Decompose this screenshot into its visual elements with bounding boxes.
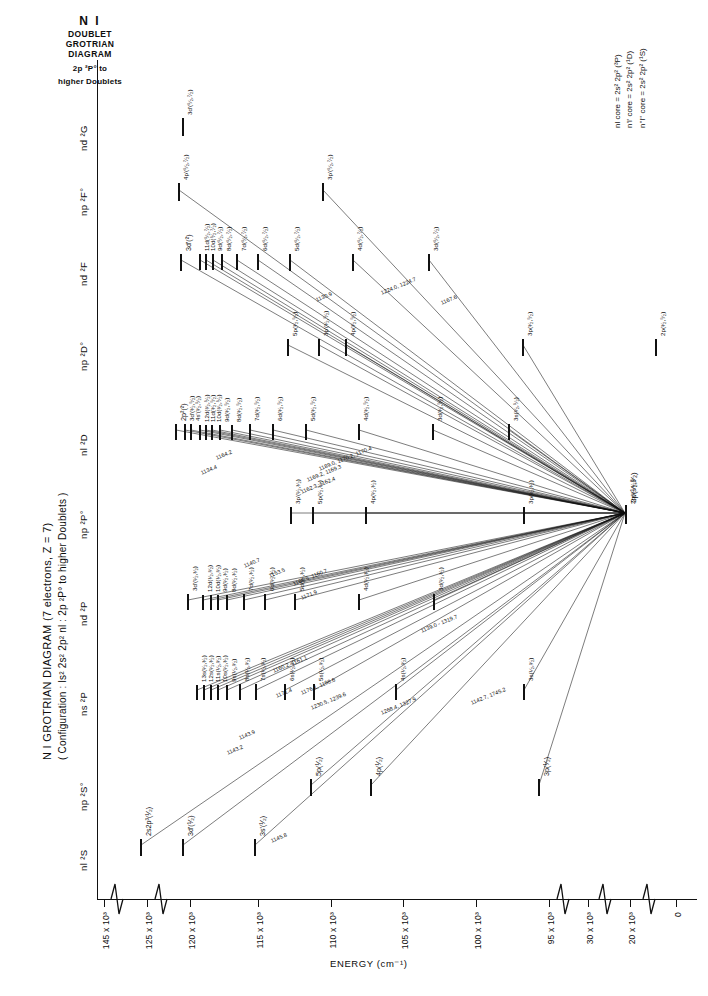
energy-level-label: 3p(¹⁄₂,³⁄₂) bbox=[527, 480, 534, 504]
energy-level-label: 3s'(¹⁄₂) bbox=[258, 815, 267, 835]
energy-level-marker bbox=[203, 685, 205, 700]
energy-level-marker bbox=[538, 779, 540, 796]
energy-level-label: 4d(¹⁄₂,³⁄₂) bbox=[362, 567, 369, 591]
energy-level-label: 4p(³⁄₂,⁵⁄₂) bbox=[349, 311, 356, 335]
core-legend-item-2: n''l'' core = 2s² 2p² (¹S) bbox=[637, 48, 649, 128]
axis-break-mark bbox=[599, 884, 611, 914]
energy-level-label: 5s(¹⁄₂,³⁄₂) bbox=[317, 658, 324, 681]
energy-level-marker bbox=[428, 254, 430, 271]
energy-level-label: 8d(¹⁄₂,³⁄₂) bbox=[230, 568, 237, 592]
energy-level-label: 8d(³⁄₂,⁵⁄₂) bbox=[235, 397, 242, 421]
energy-level-marker bbox=[254, 839, 256, 856]
core-legend-item-1: n'l' core = 2s² 2p² (¹D) bbox=[624, 48, 636, 128]
energy-level-label: 3p'(³⁄₂,⁵⁄₂) bbox=[322, 310, 329, 335]
energy-level-marker bbox=[290, 507, 292, 524]
transition-line bbox=[265, 513, 625, 600]
core-legend-item-0: nl core = 2s² 2p² (³P) bbox=[612, 48, 624, 128]
axis-break-mark bbox=[111, 884, 123, 914]
transition-line bbox=[314, 513, 625, 690]
transition-line bbox=[256, 513, 625, 690]
energy-level-label: 4s'(³⁄₂,⁵⁄₂) bbox=[194, 396, 201, 421]
transition-line bbox=[232, 430, 625, 513]
ground-state-label: 2p(¹⁄₂,³⁄₂) bbox=[629, 472, 638, 503]
energy-level-marker bbox=[182, 118, 184, 136]
transition-line bbox=[295, 513, 625, 600]
energy-level-marker bbox=[249, 424, 251, 440]
energy-level-label: 5d(³⁄₂,⁵⁄₂) bbox=[309, 397, 316, 421]
energy-level-label: 12s(¹⁄₂,³⁄₂) bbox=[207, 655, 214, 682]
transition-line bbox=[218, 513, 625, 690]
energy-level-label: 8d(⁵⁄₂,⁷⁄₂) bbox=[225, 227, 232, 251]
energy-level-marker bbox=[432, 424, 434, 440]
grotrian-diagram-canvas: N I DOUBLET GROTRIAN DIAGRAM 2p ²P° to h… bbox=[0, 0, 708, 996]
energy-level-label: 9d(³⁄₂,⁵⁄₂) bbox=[223, 397, 230, 421]
energy-level-label: 2s2p³(¹⁄₂) bbox=[144, 806, 153, 835]
energy-level-marker bbox=[199, 425, 201, 440]
energy-level-label: 7d(⁵⁄₂,⁷⁄₂) bbox=[240, 227, 247, 251]
energy-level-label: 10s(¹⁄₂,³⁄₂) bbox=[221, 655, 228, 682]
energy-level-marker bbox=[140, 839, 142, 856]
transition-line bbox=[311, 513, 625, 785]
transition-line bbox=[288, 345, 625, 513]
energy-level-marker bbox=[294, 594, 296, 610]
energy-level-label: 3p(¹⁄₂) bbox=[542, 756, 551, 775]
energy-level-label: 4s(¹⁄₂,³⁄₂) bbox=[399, 658, 406, 681]
energy-level-label: 4p'(⁵⁄₂,⁷⁄₂) bbox=[182, 154, 189, 180]
energy-level-label: 7d(¹⁄₂,³⁄₂) bbox=[247, 567, 254, 591]
energy-level-marker bbox=[523, 684, 525, 700]
energy-level-marker bbox=[318, 339, 320, 356]
energy-level-label: 4p(¹⁄₂) bbox=[374, 756, 383, 775]
transition-line bbox=[306, 430, 625, 513]
transition-line bbox=[250, 430, 625, 513]
energy-level-label: 3d(³⁄₂,⁵⁄₂) bbox=[436, 397, 443, 421]
energy-level-marker bbox=[523, 507, 525, 524]
energy-level-marker bbox=[210, 595, 212, 610]
energy-level-marker bbox=[196, 685, 198, 700]
energy-level-marker bbox=[358, 424, 360, 440]
transition-line bbox=[359, 430, 625, 513]
energy-level-label: 7d(³⁄₂,⁵⁄₂) bbox=[253, 397, 260, 421]
energy-level-label: 4d(⁵⁄₂,⁷⁄₂) bbox=[356, 226, 363, 250]
energy-level-marker bbox=[522, 339, 524, 356]
energy-level-marker bbox=[287, 339, 289, 356]
energy-level-marker bbox=[264, 594, 266, 610]
energy-level-marker bbox=[305, 424, 307, 440]
energy-level-marker bbox=[211, 425, 213, 440]
energy-level-label: 3d'(¹⁄₂) bbox=[186, 815, 195, 836]
energy-level-label: 3d'(²) bbox=[184, 234, 193, 251]
energy-level-marker bbox=[205, 425, 207, 440]
energy-level-label: 3p'(⁵⁄₂,⁷⁄₂) bbox=[326, 154, 333, 180]
energy-level-marker bbox=[217, 685, 219, 700]
transition-line bbox=[181, 260, 625, 513]
energy-level-marker bbox=[212, 254, 214, 270]
energy-level-label: 13s(¹⁄₂,³⁄₂) bbox=[200, 655, 207, 682]
energy-level-marker bbox=[312, 507, 314, 524]
axis-break-mark bbox=[557, 884, 569, 914]
energy-level-label: 3d(¹⁄₂,³⁄₂) bbox=[437, 567, 444, 591]
energy-level-label: 5d(⁵⁄₂,⁷⁄₂) bbox=[293, 226, 300, 250]
energy-level-marker bbox=[175, 424, 177, 440]
energy-level-label: 3s(¹⁄₂,³⁄₂) bbox=[527, 658, 534, 681]
energy-level-marker bbox=[226, 685, 228, 700]
energy-level-label: 10d(³⁄₂,⁵⁄₂) bbox=[215, 394, 222, 422]
energy-level-label: 6d(³⁄₂,⁵⁄₂) bbox=[276, 397, 283, 421]
energy-level-marker bbox=[236, 254, 238, 270]
energy-level-marker bbox=[370, 779, 372, 796]
transition-line bbox=[359, 513, 625, 600]
energy-level-marker bbox=[655, 339, 657, 356]
energy-level-label: 7s(¹⁄₂,³⁄₂) bbox=[259, 658, 266, 681]
energy-level-marker bbox=[187, 594, 189, 610]
energy-level-label: 3d'(⁵⁄₂,⁷⁄₂) bbox=[186, 89, 193, 115]
energy-level-label: 9s(¹⁄₂,³⁄₂) bbox=[230, 658, 237, 681]
energy-level-label: 5p(¹⁄₂) bbox=[314, 756, 323, 775]
energy-level-label: 11s(¹⁄₂,³⁄₂) bbox=[214, 655, 221, 681]
energy-level-marker bbox=[226, 595, 228, 610]
energy-level-label: 9d(⁵⁄₂,⁷⁄₂) bbox=[216, 227, 223, 251]
transition-line bbox=[285, 513, 625, 690]
energy-level-marker bbox=[345, 339, 347, 356]
energy-level-label: 3d'(¹⁄₂,³⁄₂) bbox=[191, 566, 198, 591]
energy-level-label: 8s(¹⁄₂,³⁄₂) bbox=[243, 658, 250, 681]
transition-line bbox=[220, 430, 625, 513]
energy-level-marker bbox=[255, 684, 257, 700]
transition-line bbox=[346, 345, 625, 513]
